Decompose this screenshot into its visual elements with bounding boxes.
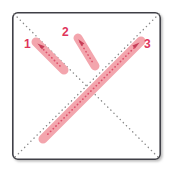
stroke-order-diagram: 1 2 3 [0, 0, 173, 172]
stroke-diagram-canvas [0, 0, 173, 172]
stroke-number-label-3: 3 [144, 38, 151, 50]
stroke-number-label-1: 1 [24, 38, 31, 50]
stroke-number-label-2: 2 [62, 26, 69, 38]
character-grid-box [13, 13, 160, 159]
